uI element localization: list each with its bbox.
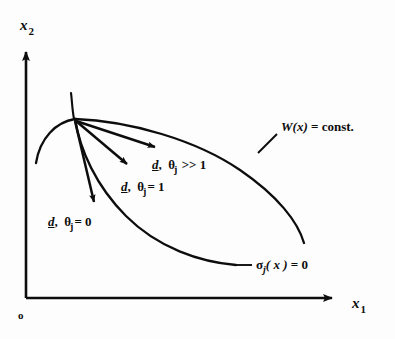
objective-equality: = const. (308, 119, 354, 134)
direction-relation: = 1 (147, 179, 164, 194)
origin-label: o (18, 310, 24, 321)
constraint-curve-label: σj( x ) = 0 (256, 258, 308, 271)
objective-symbol: W (281, 119, 293, 134)
x-axis-label: x1 (352, 296, 365, 311)
objective-contour-label: W(x) = const. (281, 120, 354, 133)
y-axis-subscript: 2 (29, 25, 35, 37)
direction-label-theta-equals-one: d, θj= 1 (121, 180, 165, 193)
objective-label-leader (258, 134, 277, 153)
direction-relation: = 0 (74, 214, 91, 229)
constraint-argument: ( x ) (266, 257, 288, 272)
direction-comma: , (159, 157, 162, 172)
y-axis-label: x2 (20, 18, 33, 33)
contour-upper-stub (71, 93, 74, 119)
constraint-subscript: j (263, 264, 266, 275)
constraint-equality: = 0 (288, 257, 308, 272)
direction-comma: , (128, 179, 131, 194)
figure-canvas: x2 x1 o W(x) = const. σj( x ) = 0 d, θj … (0, 0, 395, 339)
theta-subscript: j (174, 164, 177, 175)
x-axis-subscript: 1 (361, 303, 367, 315)
direction-arrow-theta-much-greater-than-one (76, 121, 155, 147)
direction-label-theta-equals-zero: d, θj= 0 (48, 215, 92, 228)
direction-label-theta-much-greater-than-one: d, θj >> 1 (152, 158, 206, 171)
objective-contour-right-branch (75, 119, 304, 243)
theta-subscript: j (143, 186, 146, 197)
objective-argument: (x) (293, 119, 308, 134)
theta-subscript: j (70, 221, 73, 232)
direction-comma: , (55, 214, 58, 229)
objective-contour-left-branch (36, 119, 75, 163)
y-axis-symbol: x (20, 17, 28, 33)
x-axis-symbol: x (352, 295, 360, 311)
direction-relation: >> 1 (178, 157, 206, 172)
